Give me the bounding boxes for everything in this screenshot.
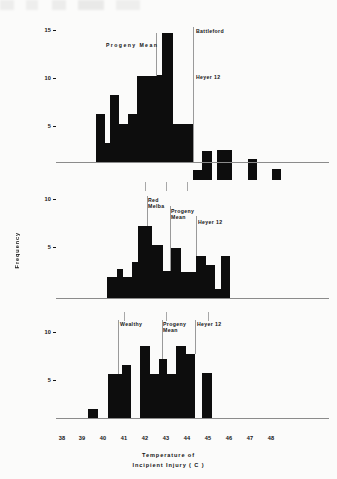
x-axis: 38 39 40 41 42 43 44 45 46 47 48 (0, 435, 337, 445)
bar (206, 265, 215, 298)
bar (122, 365, 131, 418)
x-tick-42: 42 (142, 435, 149, 441)
x-tick-40: 40 (100, 435, 107, 441)
bar (176, 346, 186, 418)
annotation-battleford: Battleford (196, 28, 224, 34)
histogram-figure: 15 10 5 Progeny Mean Battleford Heyer 12 (0, 0, 337, 479)
x-tick-43: 43 (163, 435, 170, 441)
annotation-heyer12: Heyer 12 (197, 321, 221, 327)
bar (150, 374, 159, 418)
annotation-progeny-mean: Progeny Mean (106, 42, 158, 48)
bar (152, 245, 163, 298)
bar (88, 409, 98, 418)
panel-middle-plot-area: 10 5 Red Melba Progeny Mean Heyer 12 (0, 182, 337, 310)
gridline-43-top (166, 182, 167, 191)
bar (196, 256, 206, 298)
bar (96, 114, 105, 162)
annotation-progeny-mean: Progeny Mean (163, 321, 186, 334)
panel-top: 15 10 5 Progeny Mean Battleford Heyer 12 (0, 15, 337, 180)
panel-middle-baseline (56, 298, 329, 299)
bar (202, 373, 212, 418)
x-axis-label: Temperature of Incipient Injury ( C ) (0, 450, 337, 470)
annotation-wealthy: Wealthy (120, 321, 142, 327)
panel-bottom: 10 5 Wealthy Progeny Mean Heyer 12 (0, 312, 337, 430)
bar (181, 272, 196, 298)
gridline-43-middle (166, 312, 167, 321)
bar (163, 271, 171, 298)
bar (128, 114, 137, 162)
y-axis-label: Frequency (14, 232, 20, 268)
y-tick-bottom-10: 10 (27, 329, 51, 335)
gridline-45-middle (208, 312, 209, 321)
gridline-41-middle (124, 312, 125, 321)
bar (171, 248, 181, 298)
x-tick-46: 46 (226, 435, 233, 441)
panel-bottom-baseline (56, 418, 329, 419)
y-tick-middle-5: 5 (27, 244, 51, 250)
bar (138, 226, 152, 298)
reference-line-battleford (193, 27, 194, 162)
gridline-42-top (145, 182, 146, 191)
y-tick-top-15: 15 (27, 27, 51, 33)
x-tick-38: 38 (59, 435, 66, 441)
y-tick-top-10: 10 (27, 75, 51, 81)
x-tick-47: 47 (247, 435, 254, 441)
bar (186, 354, 195, 418)
bar (119, 124, 128, 162)
bar (159, 359, 167, 418)
annotation-heyer12: Heyer 12 (198, 219, 222, 225)
annotation-red-melba: Red Melba (148, 197, 164, 210)
x-tick-44: 44 (184, 435, 191, 441)
reference-line-wealthy (118, 320, 119, 380)
y-tick-bottom-5: 5 (27, 377, 51, 383)
x-tick-48: 48 (268, 435, 275, 441)
bar (108, 374, 122, 418)
panel-middle: 10 5 Red Melba Progeny Mean Heyer 12 (0, 182, 337, 310)
x-tick-45: 45 (205, 435, 212, 441)
reference-line-heyer12 (193, 49, 194, 61)
bar (123, 277, 132, 298)
bar (140, 346, 150, 418)
bar (110, 95, 119, 162)
annotation-progeny-mean: Progeny Mean (171, 208, 194, 221)
annotation-heyer12: Heyer 12 (196, 74, 220, 80)
x-tick-41: 41 (121, 435, 128, 441)
x-tick-39: 39 (79, 435, 86, 441)
panel-bottom-plot-area: 10 5 Wealthy Progeny Mean Heyer 12 (0, 312, 337, 430)
bar (107, 277, 117, 298)
bar (193, 170, 202, 180)
bar (147, 76, 157, 162)
gridline-44-top (187, 182, 188, 191)
bar (202, 151, 212, 180)
y-tick-middle-10: 10 (27, 196, 51, 202)
panel-top-plot-area: 15 10 5 Progeny Mean Battleford Heyer 12 (0, 15, 337, 180)
bar (221, 256, 230, 298)
reference-line-heyer12 (195, 320, 196, 354)
bar (173, 124, 193, 162)
panel-top-baseline (56, 162, 329, 163)
bar (162, 33, 173, 162)
bar (272, 169, 281, 180)
bar (137, 76, 147, 162)
bar (217, 150, 232, 180)
bar (167, 374, 176, 418)
y-tick-top-5: 5 (27, 123, 51, 129)
